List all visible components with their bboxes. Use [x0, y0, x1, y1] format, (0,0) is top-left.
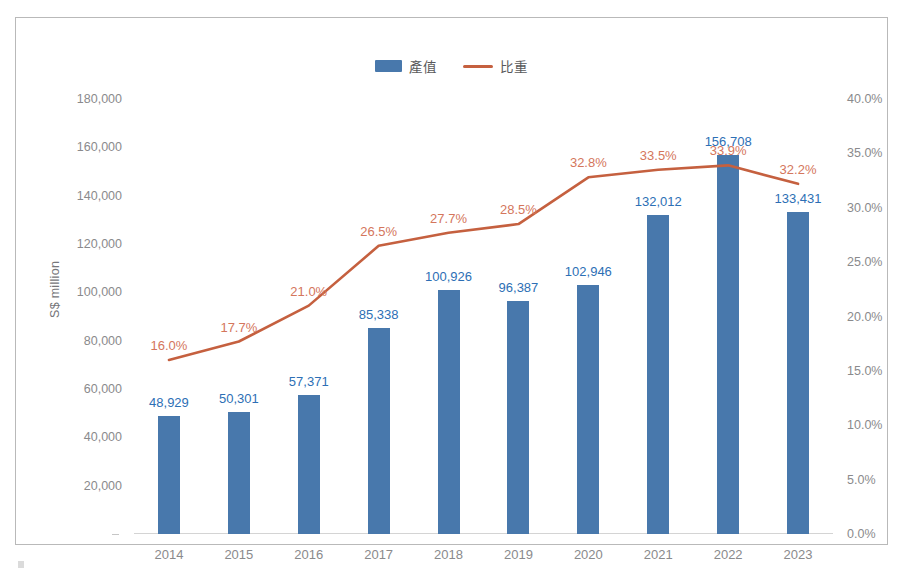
legend-bar-swatch-icon — [375, 60, 402, 72]
x-axis-tick-2023: 2023 — [784, 547, 813, 562]
y-axis-left-tick: 80,000 — [84, 335, 122, 348]
percentage-value-label: 33.9% — [710, 143, 747, 158]
legend-label: 比重 — [500, 56, 528, 76]
y-axis-left-tick: 180,000 — [77, 93, 122, 106]
plot-area: 180,000160,000140,000120,000100,00080,00… — [134, 99, 833, 534]
y-axis-right-tick: 15.0% — [847, 365, 882, 378]
y-axis-right-tick: 25.0% — [847, 256, 882, 269]
x-axis-tick-2019: 2019 — [504, 547, 533, 562]
percentage-line-series — [134, 99, 833, 534]
y-axis-right-tick: 35.0% — [847, 147, 882, 160]
x-axis-tick-2014: 2014 — [154, 547, 183, 562]
x-axis-tick-2017: 2017 — [364, 547, 393, 562]
x-axis-tick-2021: 2021 — [644, 547, 673, 562]
x-axis-tick-2018: 2018 — [434, 547, 463, 562]
percentage-value-label: 16.0% — [151, 338, 188, 353]
chart-legend: 產值比重 — [16, 56, 887, 76]
x-axis-tick-2022: 2022 — [714, 547, 743, 562]
percentage-value-label: 21.0% — [290, 284, 327, 299]
y-axis-left-tick: 60,000 — [84, 383, 122, 396]
percentage-value-label: 27.7% — [430, 211, 467, 226]
legend-line-swatch-icon — [463, 65, 493, 68]
legend-label: 產值 — [409, 56, 437, 76]
y-axis-left-tick: 40,000 — [84, 431, 122, 444]
percentage-value-label: 33.5% — [640, 148, 677, 163]
y-axis-left-tick: 120,000 — [77, 238, 122, 251]
legend-entry-2[interactable]: 比重 — [463, 56, 528, 76]
x-axis-tick-2020: 2020 — [574, 547, 603, 562]
y-axis-left-tick: 160,000 — [77, 141, 122, 154]
y-axis-left-tick: 100,000 — [77, 286, 122, 299]
y-axis-right-tick: 20.0% — [847, 311, 882, 324]
y-axis-right-tick: 30.0% — [847, 202, 882, 215]
y-axis-right-tick: 10.0% — [847, 419, 882, 432]
line-path — [169, 165, 798, 360]
y-axis-left-tick: 140,000 — [77, 190, 122, 203]
y-axis-right-tick: 5.0% — [847, 474, 876, 487]
percentage-value-label: 32.2% — [780, 162, 817, 177]
x-axis-tick-2015: 2015 — [224, 547, 253, 562]
percentage-value-label: 17.7% — [220, 320, 257, 335]
x-axis-tick-2016: 2016 — [294, 547, 323, 562]
page-artifact-mark — [18, 561, 24, 568]
y-axis-left-tick: 20,000 — [84, 480, 122, 493]
y-axis-title: S$ million — [48, 261, 62, 318]
y-axis-right-tick: 40.0% — [847, 93, 882, 106]
chart-frame: 產值比重 S$ million 180,000160,000140,000120… — [15, 17, 888, 545]
percentage-value-label: 32.8% — [570, 155, 607, 170]
percentage-value-label: 28.5% — [500, 202, 537, 217]
baseline-origin-tick — [112, 534, 119, 535]
y-axis-right-tick: 0.0% — [847, 528, 876, 541]
legend-entry-1[interactable]: 產值 — [375, 56, 437, 76]
percentage-value-label: 26.5% — [360, 224, 397, 239]
